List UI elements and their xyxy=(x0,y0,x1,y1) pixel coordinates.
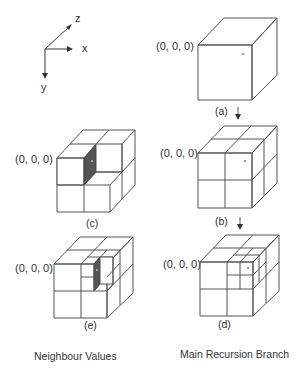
cube-a xyxy=(198,18,277,100)
diagram-canvas xyxy=(0,0,303,381)
cube-b xyxy=(198,126,277,208)
cube-d xyxy=(200,235,279,316)
cube-c xyxy=(57,130,135,212)
arrow-down-icon xyxy=(235,107,241,120)
arrow-down-icon xyxy=(237,217,243,230)
axes-icon xyxy=(42,24,73,79)
cube-e xyxy=(54,237,133,318)
